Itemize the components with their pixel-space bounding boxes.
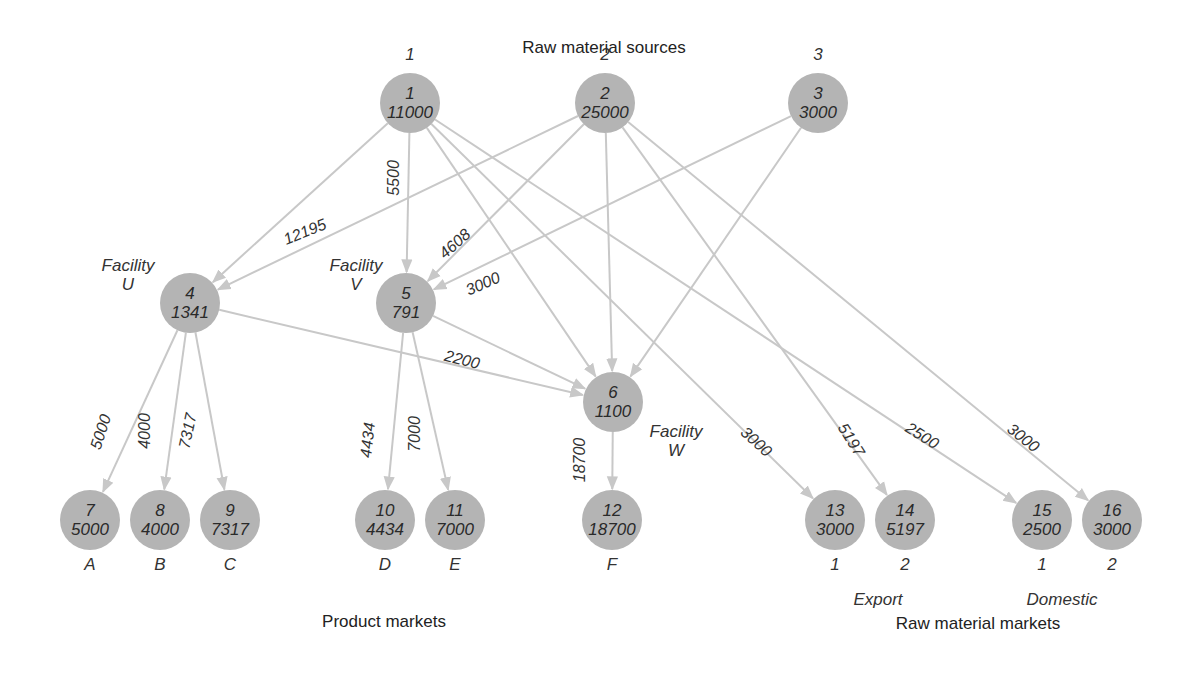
node-value: 1100 xyxy=(595,402,632,421)
facility-label-letter: V xyxy=(330,275,383,294)
node-value: 18700 xyxy=(588,520,635,539)
node-value: 3000 xyxy=(1093,520,1131,539)
node-value: 791 xyxy=(392,303,420,322)
node-id: 10 xyxy=(376,501,395,520)
node-value: 3000 xyxy=(816,520,854,539)
facility-label-word: Facility xyxy=(650,422,703,441)
node-id: 14 xyxy=(896,501,915,520)
facility-label-letter: W xyxy=(650,441,703,460)
node-value: 5000 xyxy=(71,520,109,539)
node-value: 4000 xyxy=(141,520,179,539)
node-11: 117000 xyxy=(425,490,485,550)
node-value: 2500 xyxy=(1023,520,1061,539)
market-label: 1 xyxy=(830,555,839,574)
market-label: 2 xyxy=(1107,555,1116,574)
node-6: 61100 xyxy=(583,372,643,432)
source-index-label: 2 xyxy=(600,45,609,64)
edge-3-to-5 xyxy=(434,116,791,289)
node-16: 163000 xyxy=(1082,490,1142,550)
market-group-label: Export xyxy=(853,590,902,609)
node-id: 1 xyxy=(405,84,414,103)
node-value: 11000 xyxy=(387,103,433,122)
node-id: 5 xyxy=(401,284,410,303)
source-index-label: 3 xyxy=(813,45,822,64)
node-value: 3000 xyxy=(799,103,837,122)
node-value: 25000 xyxy=(581,103,628,122)
edge-2-to-4 xyxy=(218,116,578,290)
market-label: 1 xyxy=(1037,555,1046,574)
market-group-label: Domestic xyxy=(1027,590,1098,609)
node-id: 11 xyxy=(446,501,464,520)
node-id: 15 xyxy=(1033,501,1052,520)
market-label: 2 xyxy=(900,555,909,574)
node-value: 4434 xyxy=(366,520,404,539)
edge-2-to-6 xyxy=(606,133,612,371)
node-value: 7317 xyxy=(211,520,249,539)
facility-label-word: Facility xyxy=(330,256,383,275)
node-9: 97317 xyxy=(200,490,260,550)
node-3: 33000 xyxy=(788,73,848,133)
source-index-label: 1 xyxy=(405,45,414,64)
node-id: 3 xyxy=(813,84,822,103)
raw-material-markets-title: Raw material markets xyxy=(896,614,1060,634)
facility-label: FacilityV xyxy=(330,256,383,294)
node-value: 5197 xyxy=(886,520,924,539)
node-15: 152500 xyxy=(1012,490,1072,550)
edge-1-to-5 xyxy=(407,133,410,272)
facility-label: FacilityU xyxy=(102,256,155,294)
edge-4-to-9 xyxy=(195,333,224,490)
node-12: 1218700 xyxy=(582,490,642,550)
node-5: 5791 xyxy=(376,273,436,333)
market-label: C xyxy=(224,555,236,574)
market-label: B xyxy=(154,555,165,574)
node-id: 4 xyxy=(185,284,194,303)
node-id: 8 xyxy=(155,501,164,520)
node-4: 41341 xyxy=(160,273,220,333)
node-value: 7000 xyxy=(436,520,474,539)
edge-label-1-to-5: 5500 xyxy=(385,160,403,196)
node-id: 7 xyxy=(85,501,94,520)
market-label: A xyxy=(84,555,95,574)
edge-label-5-to-10: 4434 xyxy=(357,421,379,458)
facility-label-word: Facility xyxy=(102,256,155,275)
facility-label-letter: U xyxy=(102,275,155,294)
edge-5-to-10 xyxy=(388,333,403,489)
node-14: 145197 xyxy=(875,490,935,550)
node-id: 6 xyxy=(608,383,617,402)
node-id: 12 xyxy=(603,501,622,520)
market-label: F xyxy=(607,555,617,574)
node-id: 13 xyxy=(826,501,845,520)
facility-label: FacilityW xyxy=(650,422,703,460)
edge-label-5-to-11: 7000 xyxy=(406,416,424,452)
node-id: 9 xyxy=(225,501,234,520)
node-1: 111000 xyxy=(380,73,440,133)
node-id: 16 xyxy=(1103,501,1122,520)
product-markets-title: Product markets xyxy=(322,612,446,632)
node-value: 1341 xyxy=(171,303,209,322)
market-label: E xyxy=(449,555,460,574)
node-id: 2 xyxy=(600,84,609,103)
node-2: 225000 xyxy=(575,73,635,133)
edge-5-to-11 xyxy=(413,332,449,489)
edge-label-6-to-12: 18700 xyxy=(571,438,589,483)
node-10: 104434 xyxy=(355,490,415,550)
node-13: 133000 xyxy=(805,490,865,550)
edge-label-4-to-8: 4000 xyxy=(136,413,154,449)
node-7: 75000 xyxy=(60,490,120,550)
market-label: D xyxy=(379,555,391,574)
node-8: 84000 xyxy=(130,490,190,550)
